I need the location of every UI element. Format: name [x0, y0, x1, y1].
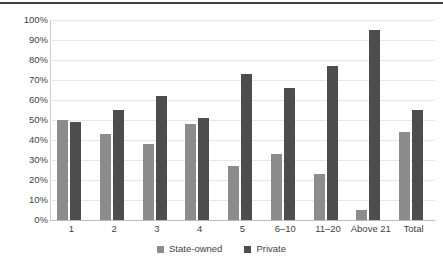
bar-group: [392, 20, 435, 220]
x-axis-label-6-10: 6–10: [264, 222, 307, 236]
x-axis-label-total: Total: [392, 222, 435, 236]
y-axis-label-70: 70%: [2, 75, 48, 85]
bar-state-owned[interactable]: [57, 120, 68, 220]
bar-state-owned[interactable]: [185, 124, 196, 220]
x-axis-label-4: 4: [178, 222, 221, 236]
x-axis-tick-labels: 123456–1011–20Above 21Total: [50, 222, 435, 238]
legend-swatch-icon: [157, 246, 164, 253]
y-axis-label-100: 100%: [2, 15, 48, 25]
bar-group: [221, 20, 264, 220]
y-axis-label-30: 30%: [2, 155, 48, 165]
x-axis-label-1: 1: [50, 222, 93, 236]
legend-item-private[interactable]: Private: [244, 244, 286, 254]
y-axis-label-20: 20%: [2, 175, 48, 185]
bar-private[interactable]: [156, 96, 167, 220]
bar-private[interactable]: [198, 118, 209, 220]
bar-state-owned[interactable]: [399, 132, 410, 220]
top-divider-rule: [0, 2, 443, 4]
x-axis-label-11-20: 11–20: [307, 222, 350, 236]
bar-state-owned[interactable]: [356, 210, 367, 220]
legend-item-state-owned[interactable]: State-owned: [157, 244, 222, 254]
x-axis-label-2: 2: [93, 222, 136, 236]
bar-private[interactable]: [70, 122, 81, 220]
bar-private[interactable]: [369, 30, 380, 220]
gridline-0: [50, 220, 435, 221]
y-axis-tick-labels: 0%10%20%30%40%50%60%70%80%90%100%: [0, 20, 48, 220]
chart-legend: State-ownedPrivate: [0, 242, 443, 256]
x-axis-label-5: 5: [221, 222, 264, 236]
bar-state-owned[interactable]: [314, 174, 325, 220]
legend-label: Private: [256, 244, 286, 254]
x-axis-label-3: 3: [136, 222, 179, 236]
bar-group: [93, 20, 136, 220]
legend-swatch-icon: [244, 246, 251, 253]
bar-private[interactable]: [241, 74, 252, 220]
bar-group: [178, 20, 221, 220]
y-axis-label-90: 90%: [2, 35, 48, 45]
y-axis-label-0: 0%: [2, 215, 48, 225]
y-axis-label-50: 50%: [2, 115, 48, 125]
x-axis-label-above-21: Above 21: [349, 222, 392, 236]
bar-group: [307, 20, 350, 220]
bar-group: [50, 20, 93, 220]
bar-private[interactable]: [113, 110, 124, 220]
bar-state-owned[interactable]: [100, 134, 111, 220]
bar-state-owned[interactable]: [143, 144, 154, 220]
y-axis-label-40: 40%: [2, 135, 48, 145]
y-axis-label-60: 60%: [2, 95, 48, 105]
bar-group: [264, 20, 307, 220]
legend-label: State-owned: [169, 244, 222, 254]
bar-group: [349, 20, 392, 220]
y-axis-label-10: 10%: [2, 195, 48, 205]
bar-group: [136, 20, 179, 220]
bar-private[interactable]: [412, 110, 423, 220]
plot-area: [50, 20, 435, 220]
y-axis-label-80: 80%: [2, 55, 48, 65]
bar-private[interactable]: [327, 66, 338, 220]
bar-state-owned[interactable]: [228, 166, 239, 220]
bar-private[interactable]: [284, 88, 295, 220]
bar-state-owned[interactable]: [271, 154, 282, 220]
bar-chart: 0%10%20%30%40%50%60%70%80%90%100% 123456…: [0, 0, 443, 264]
